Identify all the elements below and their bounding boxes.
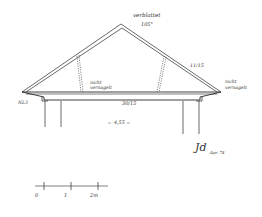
signature-date: Apr. 74 [209, 150, 225, 155]
roof-truss-drawing: verblattet 105° 11/15 nicht vernagelt ni… [0, 0, 262, 217]
scale-bar [35, 182, 108, 190]
apex-joint-label: verblattet [133, 12, 161, 18]
left-wall [45, 101, 61, 127]
scale-label-0: 0 [35, 192, 39, 198]
right-strut [157, 56, 166, 92]
scale-label-1: 1 [64, 192, 67, 198]
right-eave-label-1: nicht [225, 79, 237, 84]
signature: Jd [193, 141, 206, 154]
right-eave-label-2: vernagelt [225, 85, 247, 90]
left-strut-label-2: vernagelt [90, 85, 112, 90]
apex-angle-label: 105° [141, 21, 154, 27]
rafter-size-label: 11/15 [190, 63, 204, 68]
tie-beam-size-label: 30/15 [122, 100, 136, 106]
tie-beam [22, 92, 221, 94]
scale-label-2: 2m [89, 192, 98, 198]
right-rafter [121, 24, 221, 92]
right-wall [183, 101, 199, 134]
left-strut [77, 55, 83, 92]
left-eave-label: NL3 [17, 100, 28, 105]
span-label: 4,55 [113, 120, 125, 125]
left-rafter [22, 24, 122, 92]
